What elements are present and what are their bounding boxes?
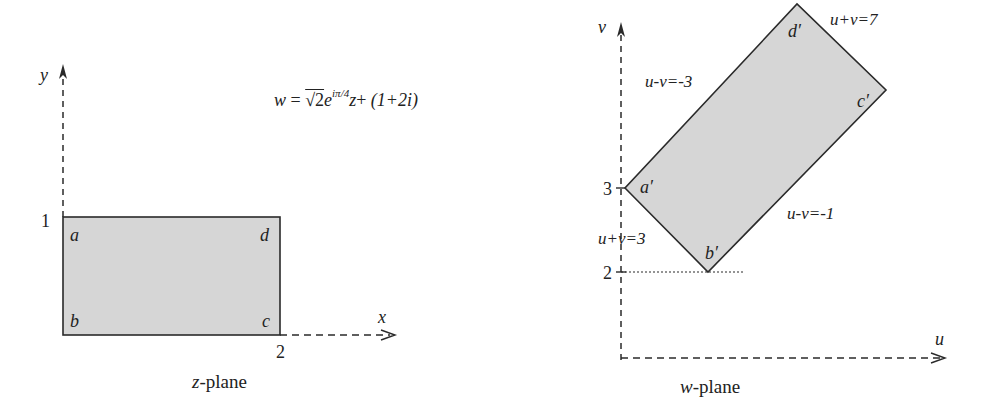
v-axis-arrow-icon <box>617 22 625 37</box>
diagram-graphics <box>0 0 983 415</box>
formula-constant: (1+2i) <box>371 90 418 110</box>
w-plane-caption: w-plane <box>680 377 740 396</box>
vertex-d-prime-label: d′ <box>788 22 801 40</box>
vertex-b-label: b <box>70 312 79 330</box>
z-rectangle-region <box>63 217 280 335</box>
w-plane-graphics <box>616 4 945 363</box>
formula-coef: √2 <box>305 90 324 110</box>
y-axis-arrow-icon <box>59 64 67 79</box>
edge-label-bottom-right: u-v=-1 <box>787 205 834 222</box>
v-tick-3-label: 3 <box>603 180 612 198</box>
formula-lhs: w <box>274 90 286 110</box>
vertex-a-label: a <box>70 226 79 244</box>
x-axis-label: x <box>378 308 386 326</box>
vertex-a-prime-label: a′ <box>640 178 653 196</box>
vertex-c-label: c <box>262 312 270 330</box>
vertex-c-prime-label: c′ <box>857 92 869 110</box>
formula-plus: + <box>356 90 366 110</box>
formula-exponent: iπ/4 <box>332 87 349 99</box>
vertex-b-prime-label: b′ <box>705 244 718 262</box>
formula-exp-base: e <box>324 90 332 110</box>
y-axis-label: y <box>40 66 48 84</box>
figure-canvas: y 1 x 2 a d b c z-plane w = √2eiπ/4z+ (1… <box>0 0 983 415</box>
w-plane-caption-var: w <box>680 376 693 397</box>
z-plane-caption-text: -plane <box>199 371 246 392</box>
w-rectangle-region <box>625 4 886 272</box>
v-tick-2-label: 2 <box>603 264 612 282</box>
edge-label-top-left: u-v=-3 <box>645 73 692 90</box>
edge-label-top-right: u+v=7 <box>830 11 878 28</box>
edge-label-bottom-left: u+v=3 <box>598 230 646 247</box>
mapping-formula: w = √2eiπ/4z+ (1+2i) <box>274 91 418 109</box>
v-axis-label: v <box>598 18 606 36</box>
u-axis-label: u <box>935 330 944 348</box>
w-plane-caption-text: -plane <box>693 376 740 397</box>
x-tick-label: 2 <box>276 343 285 361</box>
formula-eq: = <box>291 90 301 110</box>
y-tick-label: 1 <box>41 212 50 230</box>
vertex-d-label: d <box>260 226 269 244</box>
z-plane-caption: z-plane <box>192 372 247 391</box>
